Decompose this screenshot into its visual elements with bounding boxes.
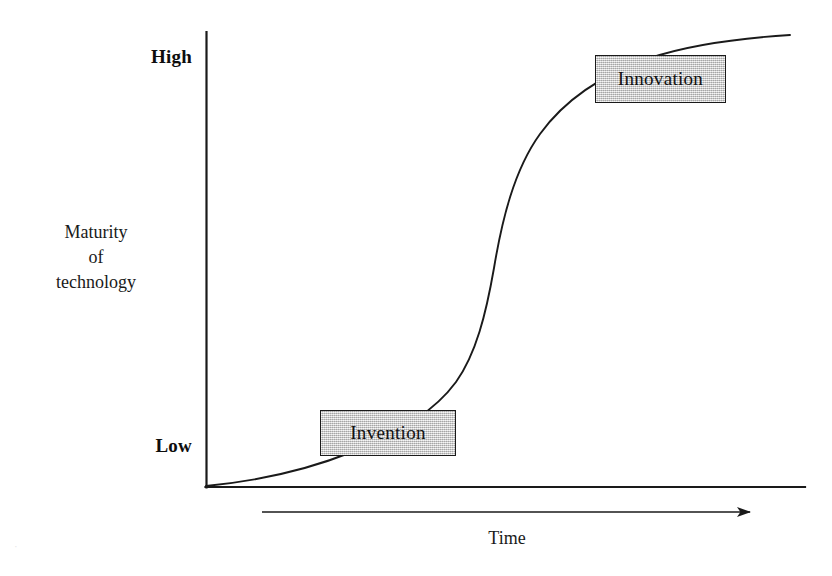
- annotation-box-innovation: Innovation: [595, 55, 726, 103]
- x-axis-title: Time: [262, 528, 752, 549]
- y-axis-title-line-2: of: [10, 245, 182, 270]
- scan-artifact: ·: [14, 540, 24, 552]
- annotation-label-innovation: Innovation: [618, 68, 703, 90]
- y-axis-title-line-1: Maturity: [10, 220, 182, 245]
- annotation-label-invention: Invention: [350, 422, 426, 444]
- y-axis-title-line-3: technology: [10, 270, 182, 295]
- technology-s-curve-figure: High Low Maturity of technology Inventio…: [0, 0, 832, 576]
- y-axis-high-label: High: [90, 46, 192, 68]
- y-axis-title: Maturity of technology: [10, 220, 182, 295]
- y-axis-low-label: Low: [90, 435, 192, 457]
- annotation-box-invention: Invention: [320, 410, 456, 456]
